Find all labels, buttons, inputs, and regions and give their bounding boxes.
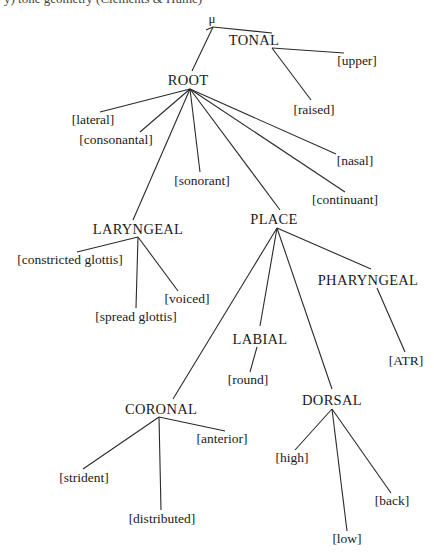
upper-feature: [upper] <box>337 54 377 68</box>
back-feature: [back] <box>375 494 409 508</box>
pharyngeal-node: PHARYNGEAL <box>318 273 418 288</box>
constricted-glottis-feature: [constricted glottis] <box>17 253 122 267</box>
dorsal-node: DORSAL <box>302 393 362 408</box>
continuant-feature: [continuant] <box>312 193 378 207</box>
laryngeal-node: LARYNGEAL <box>93 222 184 237</box>
anterior-feature: [anterior] <box>197 432 248 446</box>
voiced-feature: [voiced] <box>165 292 210 306</box>
root-node: ROOT <box>168 73 209 88</box>
spread-glottis-feature: [spread glottis] <box>95 310 176 324</box>
labial-node: LABIAL <box>233 332 288 347</box>
coronal-node: CORONAL <box>125 402 197 417</box>
round-feature: [round] <box>228 373 269 387</box>
raised-feature: [raised] <box>293 103 334 117</box>
atr-feature: [ATR] <box>389 354 424 368</box>
low-feature: [low] <box>332 532 361 546</box>
mora-node: μ <box>209 12 216 25</box>
sonorant-feature: [sonorant] <box>174 174 229 188</box>
nasal-feature: [nasal] <box>337 154 374 168</box>
distributed-feature: [distributed] <box>129 512 196 526</box>
high-feature: [high] <box>276 451 309 465</box>
consonantal-feature: [consonantal] <box>79 133 152 147</box>
strident-feature: [strident] <box>59 471 109 485</box>
tonal-node: TONAL <box>229 33 279 48</box>
place-node: PLACE <box>250 212 297 227</box>
lateral-feature: [lateral] <box>72 113 115 127</box>
